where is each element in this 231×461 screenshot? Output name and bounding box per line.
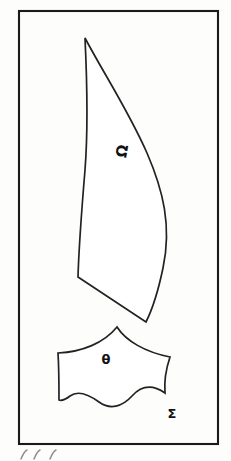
shield-shape xyxy=(58,327,170,407)
figure-canvas: Ω θ Σ xyxy=(0,0,231,461)
theta-label: θ xyxy=(102,352,111,367)
caption-mark xyxy=(34,450,40,459)
figure-page: Ω θ Σ xyxy=(0,0,231,461)
caption-mark xyxy=(21,450,27,459)
caption-mark xyxy=(50,450,56,459)
handwritten-caption xyxy=(21,450,56,459)
crescent-shape xyxy=(78,38,167,322)
sigma-label: Σ xyxy=(168,406,177,421)
